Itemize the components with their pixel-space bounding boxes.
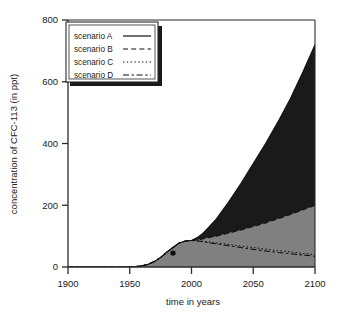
- y-tick-label: 400: [42, 138, 58, 149]
- data-point-marker: [170, 250, 175, 255]
- y-tick-label: 0: [53, 261, 58, 272]
- y-tick-label: 600: [42, 76, 58, 87]
- x-tick-label: 2050: [243, 278, 264, 289]
- data-marker-group: [170, 250, 175, 255]
- legend-label-scenario-b: scenario B: [74, 45, 113, 54]
- legend-label-scenario-a: scenario A: [74, 32, 113, 41]
- legend-label-scenario-c: scenario C: [74, 58, 113, 67]
- y-tick-label: 200: [42, 200, 58, 211]
- x-axis-title: time in years: [166, 296, 220, 307]
- legend[interactable]: scenario Ascenario Bscenario Cscenario D: [66, 22, 158, 82]
- legend-label-scenario-d: scenario D: [74, 71, 113, 80]
- x-tick-label: 2100: [304, 278, 325, 289]
- x-tick-label: 1950: [119, 278, 140, 289]
- y-axis-title: concentration of CFC-113 (in ppt): [8, 74, 19, 214]
- x-tick-label: 1900: [57, 278, 78, 289]
- y-tick-label: 800: [42, 14, 58, 25]
- cfc-113-concentration-chart: 0200400600800 19001950200020502100 conce…: [0, 0, 347, 316]
- x-tick-label: 2000: [181, 278, 202, 289]
